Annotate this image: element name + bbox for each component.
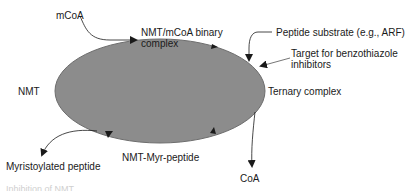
nmt-label: NMT xyxy=(18,86,40,97)
myristoylated-peptide-label: Myristoylated peptide xyxy=(6,161,101,172)
enzyme-cycle-ellipse xyxy=(55,39,265,143)
mcoa-label: mCoA xyxy=(56,10,84,21)
ternary-complex-label: Ternary complex xyxy=(268,86,341,97)
coa-release-arrow xyxy=(252,112,255,166)
inhibitor-target-label-line1: Target for benzothiazole xyxy=(291,48,398,59)
binary-complex-label-line2: complex xyxy=(141,38,178,49)
nmt-cycle-diagram: mCoA NMT/mCoA binary complex Peptide sub… xyxy=(0,0,418,191)
figure-caption-partial: Inhibition of NMT ... xyxy=(6,184,84,191)
nmt-myr-peptide-label: NMT-Myr-peptide xyxy=(122,152,199,163)
coa-label: CoA xyxy=(240,173,259,184)
inhibitor-target-label-line2: inhibitors xyxy=(291,59,331,70)
mcoa-entry-arrow xyxy=(80,16,136,40)
peptide-entry-arrow xyxy=(249,32,272,60)
binary-complex-label-line1: NMT/mCoA binary xyxy=(141,27,223,38)
myr-peptide-release-arrow xyxy=(42,130,97,155)
inhibitor-target-arrow xyxy=(261,58,290,66)
peptide-substrate-label: Peptide substrate (e.g., ARF) xyxy=(276,27,405,38)
